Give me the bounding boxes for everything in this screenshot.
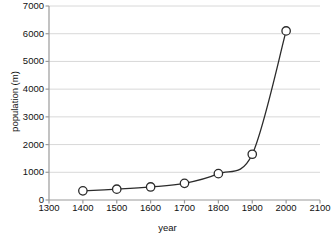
y-axis-tick-label: 6000 <box>4 29 44 39</box>
data-point-marker <box>146 183 154 191</box>
data-point-marker <box>282 27 290 35</box>
data-point-marker <box>248 150 256 158</box>
y-axis-title: population (m) <box>9 54 20 150</box>
y-axis-tick-label: 7000 <box>4 1 44 11</box>
data-point-marker <box>113 185 121 193</box>
data-point-marker <box>180 179 188 187</box>
x-axis-title: year <box>0 222 335 233</box>
x-axis-tick-label: 2100 <box>300 203 335 213</box>
population-line-chart: 01000200030004000500060007000 1300140015… <box>0 0 335 238</box>
data-series-line <box>83 31 286 191</box>
y-axis-tick-label: 1000 <box>4 167 44 177</box>
data-point-marker <box>214 169 222 177</box>
data-point-marker <box>79 187 87 195</box>
